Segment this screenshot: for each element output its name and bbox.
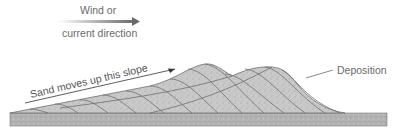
deposition-leader-line xyxy=(306,70,333,78)
base-layer xyxy=(10,113,387,126)
dune-diagram: Sand moves up this slope xyxy=(0,0,395,134)
wind-label-line2: current direction xyxy=(62,28,137,39)
deposition-label: Deposition xyxy=(337,65,387,76)
wind-label-line1: Wind or xyxy=(80,5,116,16)
wind-arrow-icon xyxy=(58,17,140,26)
